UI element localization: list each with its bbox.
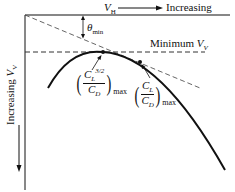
theta-min-label: θmin xyxy=(87,22,103,36)
minimum-vv-label: Minimum VV xyxy=(150,38,208,52)
max-cl32-cd-label: ( CL3/2CD )max xyxy=(75,68,127,98)
point-max-cl32-cd xyxy=(101,50,105,54)
top-axis-increasing: Increasing xyxy=(166,2,212,13)
arrow-down-icon xyxy=(81,34,85,39)
arrow-up-icon xyxy=(81,16,85,21)
left-axis-label: Increasing VV xyxy=(5,65,19,125)
top-axis-label: VH xyxy=(104,2,116,16)
max-cl-cd-label: ( CLCD )max xyxy=(133,80,176,109)
arrow-down-icon xyxy=(17,165,22,172)
point-max-cl-cd xyxy=(138,60,142,64)
arrow-right-icon xyxy=(156,6,163,11)
arrow-icon xyxy=(97,55,102,60)
